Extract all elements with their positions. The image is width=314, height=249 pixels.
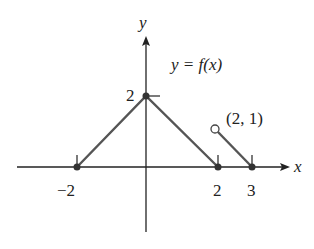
function-label: y = f(x) bbox=[169, 55, 222, 74]
x-tick-label-3: 3 bbox=[247, 181, 256, 200]
graph-segment-right bbox=[217, 131, 252, 167]
x-tick-label-neg2: −2 bbox=[57, 181, 75, 200]
y-tick-label-2: 2 bbox=[126, 86, 135, 105]
function-graph: y x y = f(x) (2, 1) 2 −2 2 3 bbox=[0, 0, 314, 249]
graph-svg: y x y = f(x) (2, 1) 2 −2 2 3 bbox=[0, 0, 314, 249]
closed-point-3-0 bbox=[249, 164, 256, 171]
closed-point-neg2-0 bbox=[74, 164, 81, 171]
y-axis-label: y bbox=[137, 13, 147, 32]
closed-point-2-0 bbox=[215, 164, 222, 171]
open-point-label: (2, 1) bbox=[226, 109, 263, 128]
open-point-2-1 bbox=[211, 125, 219, 133]
graph-segment-peak bbox=[77, 96, 218, 167]
x-axis-label: x bbox=[293, 157, 302, 176]
x-tick-label-2: 2 bbox=[213, 181, 222, 200]
closed-point-0-2 bbox=[143, 93, 150, 100]
